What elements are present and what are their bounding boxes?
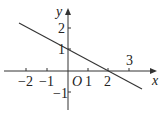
y-tick-label: −1 bbox=[53, 86, 68, 101]
x-tick-label: −2 bbox=[18, 74, 33, 89]
x-tick-label: 2 bbox=[104, 74, 111, 89]
x-axis-label: x bbox=[151, 73, 159, 88]
y-axis-arrow-icon bbox=[65, 8, 71, 15]
y-tick-label: 2 bbox=[58, 21, 65, 36]
origin-label: O bbox=[72, 74, 82, 89]
coordinate-diagram: y x O −2 −1 1 2 3 2 1 −1 bbox=[0, 0, 163, 115]
x-tick-label: −1 bbox=[39, 74, 54, 89]
y-axis-label: y bbox=[54, 4, 63, 19]
x-tick-label: 1 bbox=[85, 74, 92, 89]
x-tick-label: 3 bbox=[126, 53, 133, 68]
y-tick-label: 1 bbox=[58, 42, 65, 57]
